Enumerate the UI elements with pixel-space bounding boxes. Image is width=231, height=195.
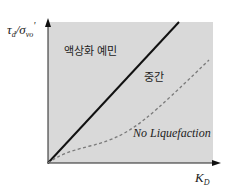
region-label-intermediate: 중간 xyxy=(144,68,164,84)
region-label-no-liquefaction: No Liquefaction xyxy=(133,126,211,141)
region-label-liquefaction-susceptible: 액상화 예민 xyxy=(64,42,118,58)
x-axis-arrow-icon xyxy=(212,160,221,166)
liquefaction-diagram: τd/σvo' KD 액상화 예민 중간 No Liquefaction xyxy=(0,0,231,195)
y-label-prime: ' xyxy=(33,20,35,31)
y-axis-label: τd/σvo' xyxy=(7,20,35,39)
x-label-k: K xyxy=(195,170,204,185)
y-label-sigma-sub: vo xyxy=(26,30,34,39)
x-axis-label: KD xyxy=(195,170,209,187)
x-label-k-sub: D xyxy=(204,178,210,187)
